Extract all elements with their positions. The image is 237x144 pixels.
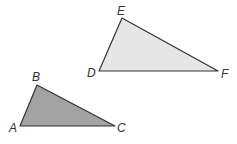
vertex-label-b: B xyxy=(32,70,40,84)
vertex-label-d: D xyxy=(87,66,96,80)
vertex-label-f: F xyxy=(221,67,229,81)
triangle-def xyxy=(99,18,218,71)
vertex-label-a: A xyxy=(8,121,17,135)
vertex-label-e: E xyxy=(117,4,126,18)
triangle-abc xyxy=(20,85,115,126)
triangles-diagram: D E F A B C xyxy=(0,0,237,144)
vertex-label-c: C xyxy=(117,121,126,135)
